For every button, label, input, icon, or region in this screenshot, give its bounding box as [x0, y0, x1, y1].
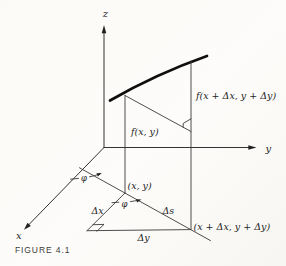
delta-s-label: Δs: [162, 205, 175, 216]
y-axis-arrowhead: [248, 145, 256, 150]
surface-curve: [110, 56, 207, 101]
point-xdxdy-label: (x + Δx, y + Δy): [194, 221, 271, 232]
figure-4-1-page: z y x φ φ f: [0, 0, 286, 266]
f-xy-label: f(x, y): [130, 126, 159, 137]
point-xy-label: (x, y): [128, 180, 152, 191]
f-xdxdy-label: f(x + Δx, y + Δy): [195, 90, 276, 101]
phi-lower-leader-line: [112, 202, 119, 203]
phi-lower-label: φ: [122, 199, 128, 209]
right-angle-marker-upper: [183, 119, 191, 127]
phi-upper-leader-line: [71, 178, 79, 179]
phi-upper-arrowhead: [97, 173, 102, 177]
y-axis-label: y: [265, 143, 272, 154]
figure-caption: FIGURE 4.1: [15, 245, 70, 255]
z-axis-label: z: [102, 8, 109, 19]
delta-x-label: Δx: [91, 205, 105, 216]
delta-y-label: Δy: [137, 232, 151, 243]
x-axis-label: x: [16, 230, 22, 241]
z-axis-arrowhead: [102, 25, 107, 33]
phi-upper-label: φ: [81, 173, 87, 183]
figure-4-1-diagram: z y x φ φ f: [0, 0, 286, 266]
